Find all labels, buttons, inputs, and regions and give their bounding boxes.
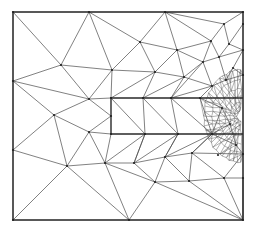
mesh-node bbox=[228, 43, 230, 45]
refined-mesh-edge bbox=[217, 137, 220, 140]
refined-mesh-edge bbox=[220, 102, 223, 105]
mesh-node bbox=[183, 76, 185, 78]
mesh-edge bbox=[224, 178, 243, 220]
mesh-edge bbox=[177, 50, 203, 62]
refined-mesh-edge bbox=[222, 156, 226, 157]
refined-mesh-edge bbox=[230, 113, 231, 115]
mesh-node bbox=[170, 97, 172, 99]
mesh-edge bbox=[211, 41, 219, 57]
refined-mesh-edge bbox=[228, 139, 231, 140]
refined-mesh-edge bbox=[232, 125, 234, 126]
mesh-edge bbox=[192, 153, 224, 178]
mesh-edge bbox=[229, 44, 243, 50]
refined-mesh-edge bbox=[213, 147, 216, 150]
mesh-edge bbox=[155, 157, 165, 182]
refined-mesh-edge bbox=[230, 115, 231, 119]
mesh-edge bbox=[89, 98, 111, 99]
mesh-node bbox=[164, 156, 166, 158]
refined-mesh-edge bbox=[217, 96, 223, 102]
mesh-edge bbox=[189, 178, 224, 181]
refined-mesh-edge bbox=[221, 142, 224, 146]
mesh-node bbox=[188, 180, 190, 182]
mesh-edge bbox=[203, 41, 211, 62]
mesh-edge bbox=[89, 99, 111, 116]
refined-mesh-edge bbox=[217, 92, 220, 96]
refined-mesh-edge bbox=[220, 121, 226, 124]
refined-mesh-edge bbox=[209, 139, 212, 142]
mesh-edge bbox=[155, 50, 177, 72]
mesh-edge bbox=[112, 42, 140, 70]
mesh-node bbox=[12, 149, 14, 151]
mesh-edge bbox=[105, 134, 111, 163]
mesh-edge bbox=[155, 182, 243, 220]
mesh-edge bbox=[155, 72, 184, 77]
refined-mesh-edge bbox=[226, 151, 234, 157]
refined-mesh-edge bbox=[219, 124, 221, 127]
mesh-node bbox=[88, 131, 90, 133]
refined-mesh-edge bbox=[234, 114, 235, 116]
refined-mesh-edge bbox=[224, 84, 228, 86]
mesh-edge bbox=[192, 153, 243, 154]
mesh-node bbox=[12, 80, 14, 82]
mesh-node bbox=[223, 23, 225, 25]
mesh-edges bbox=[13, 12, 243, 220]
refined-mesh-edge bbox=[212, 117, 213, 121]
mesh-edge bbox=[111, 70, 112, 98]
mesh-node bbox=[229, 123, 231, 125]
refined-mesh-edge bbox=[222, 85, 224, 89]
mesh-edge bbox=[229, 24, 243, 44]
mesh-edge bbox=[89, 70, 112, 99]
mesh-edge bbox=[89, 12, 112, 70]
refined-mesh-edge bbox=[209, 90, 212, 93]
mesh-edge bbox=[211, 24, 224, 41]
mesh-edge bbox=[105, 163, 155, 182]
refined-mesh-edge bbox=[232, 106, 235, 107]
mesh-node bbox=[12, 11, 14, 13]
refined-mesh-edge bbox=[225, 146, 229, 148]
mesh-node bbox=[128, 219, 130, 221]
mesh-edge bbox=[140, 42, 177, 50]
refined-mesh-edge bbox=[216, 142, 221, 150]
mesh-node bbox=[154, 71, 156, 73]
mesh-edge bbox=[111, 98, 145, 134]
mesh-edge bbox=[89, 116, 111, 132]
mesh-edge bbox=[184, 62, 203, 77]
mesh-edge bbox=[140, 12, 165, 42]
mesh-node bbox=[177, 133, 179, 135]
mesh-edge bbox=[54, 115, 89, 132]
mesh-node bbox=[232, 67, 234, 69]
refined-mesh-edge bbox=[208, 93, 209, 97]
mesh-node bbox=[154, 181, 156, 183]
mesh-edge bbox=[67, 132, 89, 166]
refined-mesh-edge bbox=[230, 71, 232, 83]
refined-mesh-edge bbox=[236, 107, 239, 109]
refined-mesh-edge bbox=[236, 103, 239, 107]
mesh-edge bbox=[89, 12, 140, 42]
mesh-node bbox=[199, 97, 201, 99]
mesh-edge bbox=[61, 65, 89, 99]
mesh-node bbox=[164, 11, 166, 13]
mesh-edge bbox=[189, 153, 192, 181]
mesh-edge bbox=[224, 12, 243, 24]
refined-mesh-edge bbox=[236, 125, 241, 128]
refined-mesh-edge bbox=[211, 134, 212, 142]
mesh-edge bbox=[165, 12, 177, 50]
mesh-node bbox=[110, 97, 112, 99]
refined-mesh-edge bbox=[230, 132, 233, 133]
mesh-edge bbox=[89, 132, 105, 163]
mesh-node bbox=[211, 133, 213, 135]
refined-mesh-edge bbox=[205, 111, 213, 112]
refined-mesh-edge bbox=[231, 107, 232, 111]
refined-mesh-edge bbox=[229, 160, 233, 161]
refined-mesh-edge bbox=[225, 124, 227, 126]
mesh-edge bbox=[67, 163, 105, 166]
mesh-edge bbox=[143, 98, 178, 134]
mesh-node bbox=[142, 97, 144, 99]
mesh-edge bbox=[61, 12, 89, 65]
mesh-node bbox=[211, 85, 213, 87]
mesh-node bbox=[139, 41, 141, 43]
mesh-node bbox=[242, 11, 244, 13]
mesh-edge bbox=[61, 65, 112, 70]
refined-mesh-edge bbox=[223, 131, 224, 133]
refined-mesh-edge bbox=[220, 76, 223, 78]
